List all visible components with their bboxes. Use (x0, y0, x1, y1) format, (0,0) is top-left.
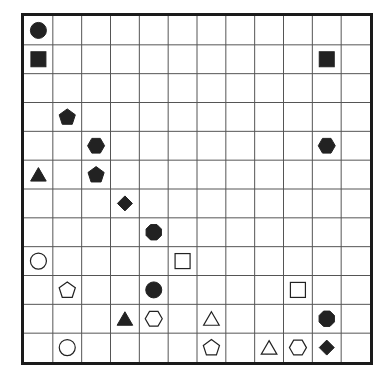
filled-circle-icon[interactable] (30, 22, 46, 38)
filled-square-icon[interactable] (31, 52, 46, 67)
board-cell-r0-c9[interactable] (284, 16, 313, 45)
board-cell-r1-c7[interactable] (226, 45, 255, 74)
board-cell-r3-c5[interactable] (168, 103, 197, 132)
board-cell-r11-c7[interactable] (226, 333, 255, 362)
filled-hexagon-icon[interactable] (88, 138, 105, 153)
board-cell-r1-c5[interactable] (168, 45, 197, 74)
board-cell-r1-c4[interactable] (139, 45, 168, 74)
board-cell-r8-c7[interactable] (226, 247, 255, 276)
board-cell-r4-c5[interactable] (168, 131, 197, 160)
board-cell-r0-c8[interactable] (255, 16, 284, 45)
filled-circle-icon[interactable] (146, 282, 162, 298)
board-cell-r9-c0[interactable] (24, 276, 53, 305)
board-cell-r8-c1[interactable] (53, 247, 82, 276)
board-cell-r6-c0[interactable] (24, 189, 53, 218)
board-cell-r4-c1[interactable] (53, 131, 82, 160)
board-cell-r1-c6[interactable] (197, 45, 226, 74)
board-cell-r3-c4[interactable] (139, 103, 168, 132)
board-cell-r2-c6[interactable] (197, 74, 226, 103)
board-cell-r4-c7[interactable] (226, 131, 255, 160)
board-cell-r6-c10[interactable] (312, 189, 341, 218)
board-cell-r4-c0[interactable] (24, 131, 53, 160)
board-cell-r6-c11[interactable] (341, 189, 370, 218)
board-cell-r9-c3[interactable] (111, 276, 140, 305)
board-cell-r4-c3[interactable] (111, 131, 140, 160)
open-square-icon[interactable] (290, 282, 305, 297)
board-cell-r5-c9[interactable] (284, 160, 313, 189)
board-cell-r0-c4[interactable] (139, 16, 168, 45)
board-cell-r7-c11[interactable] (341, 218, 370, 247)
board-cell-r2-c8[interactable] (255, 74, 284, 103)
board-cell-r8-c9[interactable] (284, 247, 313, 276)
board-cell-r4-c8[interactable] (255, 131, 284, 160)
board-cell-r5-c4[interactable] (139, 160, 168, 189)
board-cell-r3-c7[interactable] (226, 103, 255, 132)
board-cell-r9-c8[interactable] (255, 276, 284, 305)
board-cell-r7-c9[interactable] (284, 218, 313, 247)
board-cell-r11-c11[interactable] (341, 333, 370, 362)
open-hexagon-icon[interactable] (145, 311, 162, 326)
board-cell-r0-c5[interactable] (168, 16, 197, 45)
board-cell-r10-c2[interactable] (82, 304, 111, 333)
board-cell-r6-c9[interactable] (284, 189, 313, 218)
board-cell-r8-c4[interactable] (139, 247, 168, 276)
board-cell-r7-c10[interactable] (312, 218, 341, 247)
board-cell-r8-c8[interactable] (255, 247, 284, 276)
board-cell-r0-c1[interactable] (53, 16, 82, 45)
board-cell-r9-c7[interactable] (226, 276, 255, 305)
board-cell-r8-c3[interactable] (111, 247, 140, 276)
board-cell-r8-c6[interactable] (197, 247, 226, 276)
board-cell-r0-c3[interactable] (111, 16, 140, 45)
board-cell-r1-c1[interactable] (53, 45, 82, 74)
board-cell-r5-c5[interactable] (168, 160, 197, 189)
board-cell-r9-c6[interactable] (197, 276, 226, 305)
board-cell-r6-c4[interactable] (139, 189, 168, 218)
board-cell-r10-c5[interactable] (168, 304, 197, 333)
board-cell-r2-c4[interactable] (139, 74, 168, 103)
board-cell-r11-c2[interactable] (82, 333, 111, 362)
board-cell-r6-c7[interactable] (226, 189, 255, 218)
board-cell-r2-c10[interactable] (312, 74, 341, 103)
board-cell-r1-c3[interactable] (111, 45, 140, 74)
open-square-icon[interactable] (175, 254, 190, 269)
board-cell-r11-c0[interactable] (24, 333, 53, 362)
board-cell-r7-c5[interactable] (168, 218, 197, 247)
board-cell-r0-c11[interactable] (341, 16, 370, 45)
board-cell-r5-c8[interactable] (255, 160, 284, 189)
board-cell-r3-c8[interactable] (255, 103, 284, 132)
filled-square-icon[interactable] (319, 52, 334, 67)
board-cell-r9-c5[interactable] (168, 276, 197, 305)
board-cell-r2-c2[interactable] (82, 74, 111, 103)
board-cell-r2-c5[interactable] (168, 74, 197, 103)
board-cell-r2-c11[interactable] (341, 74, 370, 103)
board-cell-r10-c11[interactable] (341, 304, 370, 333)
filled-hexagon-icon[interactable] (318, 138, 335, 153)
board-cell-r11-c4[interactable] (139, 333, 168, 362)
board-cell-r4-c11[interactable] (341, 131, 370, 160)
board-cell-r7-c0[interactable] (24, 218, 53, 247)
board-cell-r0-c6[interactable] (197, 16, 226, 45)
board-cell-r4-c4[interactable] (139, 131, 168, 160)
board-cell-r2-c0[interactable] (24, 74, 53, 103)
open-hexagon-icon[interactable] (289, 340, 306, 355)
board-cell-r8-c11[interactable] (341, 247, 370, 276)
board-cell-r2-c3[interactable] (111, 74, 140, 103)
board-cell-r7-c1[interactable] (53, 218, 82, 247)
board-cell-r5-c11[interactable] (341, 160, 370, 189)
board-cell-r7-c3[interactable] (111, 218, 140, 247)
board-cell-r6-c2[interactable] (82, 189, 111, 218)
board-cell-r3-c2[interactable] (82, 103, 111, 132)
board-cell-r5-c1[interactable] (53, 160, 82, 189)
board-cell-r1-c2[interactable] (82, 45, 111, 74)
board-cell-r5-c3[interactable] (111, 160, 140, 189)
board-cell-r7-c6[interactable] (197, 218, 226, 247)
open-circle-icon[interactable] (59, 340, 75, 356)
board-cell-r4-c6[interactable] (197, 131, 226, 160)
board-cell-r11-c5[interactable] (168, 333, 197, 362)
board-cell-r10-c8[interactable] (255, 304, 284, 333)
board-cell-r9-c11[interactable] (341, 276, 370, 305)
board-cell-r10-c0[interactable] (24, 304, 53, 333)
board-cell-r3-c6[interactable] (197, 103, 226, 132)
board-cell-r10-c9[interactable] (284, 304, 313, 333)
board-cell-r0-c2[interactable] (82, 16, 111, 45)
